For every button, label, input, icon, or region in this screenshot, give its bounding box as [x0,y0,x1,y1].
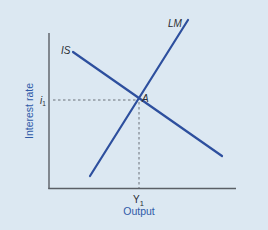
is-label: IS [61,45,71,56]
i1-tick-label: i1 [40,95,46,107]
lm-label: LM [168,18,183,29]
y-axis-title: Interest rate [23,83,35,139]
is-curve [73,52,222,156]
equilibrium-point-label: A [141,93,149,104]
is-lm-chart: LM IS A i1 Y1 Output Interest rate [0,0,268,230]
x-axis-title: Output [123,205,155,217]
i1-subscript: 1 [42,100,46,107]
